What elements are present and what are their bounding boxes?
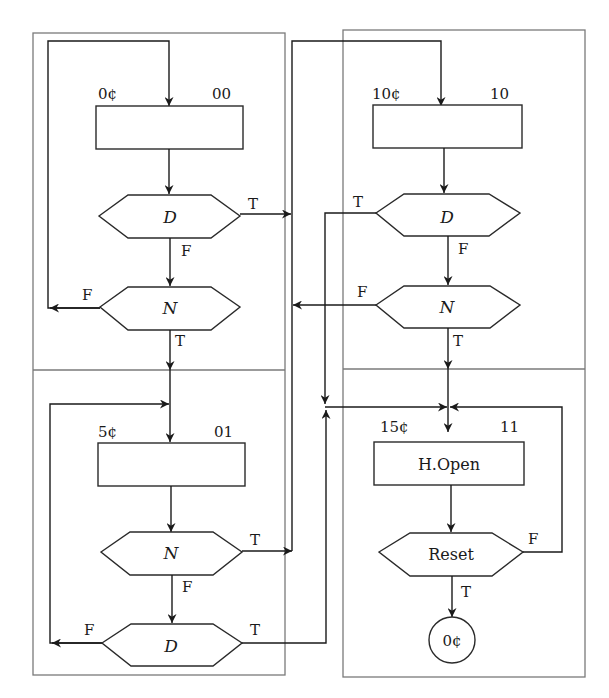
s2-d-label: D xyxy=(439,207,454,227)
s0-value-label: 0¢ xyxy=(98,85,117,103)
s3-value-label: 15¢ xyxy=(380,418,409,436)
asm-chart: 0¢ 00 D T F N F T 5¢ 01 N T F D F xyxy=(0,0,609,698)
s2-value-label: 10¢ xyxy=(372,85,401,103)
terminal-label: 0¢ xyxy=(442,632,461,650)
s3-action-label: H.Open xyxy=(418,455,480,474)
s3-reset-true-label: T xyxy=(461,583,471,601)
s0-code-label: 00 xyxy=(212,85,231,103)
s0-n-false-label: F xyxy=(82,286,92,304)
s1-d-label: D xyxy=(163,636,178,656)
s1-n-true-label: T xyxy=(250,531,260,549)
s3-reset-false-label: F xyxy=(528,530,538,548)
s1-state-box xyxy=(98,443,245,486)
s2-d-true-arrow xyxy=(325,213,376,404)
s2-d-true-label: T xyxy=(353,193,363,211)
s0-d-label: D xyxy=(162,207,177,227)
s0-n-label: N xyxy=(162,298,179,318)
s0-d-false-label: F xyxy=(181,242,191,260)
s1-code-label: 01 xyxy=(214,423,233,441)
s0-state-box xyxy=(96,106,243,149)
state-0-block: 0¢ 00 D T F N F T xyxy=(48,41,291,370)
s1-d-true-label: T xyxy=(250,621,260,639)
state-10-block: 10¢ 10 D T F N F T xyxy=(293,85,522,404)
s2-code-label: 10 xyxy=(490,85,509,103)
s1-value-label: 5¢ xyxy=(98,423,117,441)
s2-d-false-label: F xyxy=(458,240,468,258)
s1-n-label: N xyxy=(163,543,180,563)
s2-n-true-label: T xyxy=(453,332,463,350)
s3-reset-label: Reset xyxy=(428,545,474,564)
s3-code-label: 11 xyxy=(500,418,519,436)
s1-d-false-label: F xyxy=(84,621,94,639)
s0-d-true-label: T xyxy=(248,195,258,213)
s1-d-true-arrow xyxy=(242,410,326,643)
s0-loop-arrow xyxy=(48,41,169,308)
s2-n-label: N xyxy=(439,297,456,317)
s2-n-false-label: F xyxy=(357,283,367,301)
s2-state-box xyxy=(373,105,522,148)
s0-n-true-label: T xyxy=(175,332,185,350)
s1-n-false-label: F xyxy=(182,578,192,596)
state-15-block: 15¢ 11 H.Open Reset F T 0¢ xyxy=(325,369,562,663)
